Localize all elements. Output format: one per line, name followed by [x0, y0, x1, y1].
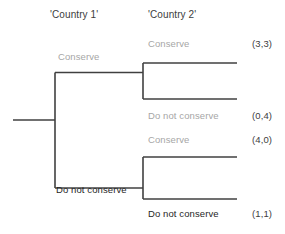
branch-label-p2-lower-conserve: Conserve	[148, 134, 189, 145]
payoff-do-not-conserve-conserve: (4,0)	[252, 134, 272, 145]
branch-label-p2-lower-do-not-conserve: Do not conserve	[148, 208, 219, 219]
game-tree-diagram: 'Country 1' 'Country 2' Conserve Do not …	[0, 0, 285, 234]
payoff-conserve-conserve: (3,3)	[252, 38, 272, 49]
branch-label-p2-upper-conserve: Conserve	[148, 38, 189, 49]
payoff-conserve-do-not-conserve: (0,4)	[252, 110, 272, 121]
branch-label-p2-upper-do-not-conserve: Do not conserve	[148, 110, 219, 121]
payoff-do-not-conserve-do-not-conserve: (1,1)	[252, 208, 272, 219]
player-1-header: 'Country 1'	[50, 9, 98, 20]
tree-lines	[0, 0, 285, 234]
player-2-header: 'Country 2'	[148, 9, 196, 20]
branch-label-p1-do-not-conserve: Do not conserve	[56, 184, 127, 195]
branch-label-p1-conserve: Conserve	[58, 51, 99, 62]
